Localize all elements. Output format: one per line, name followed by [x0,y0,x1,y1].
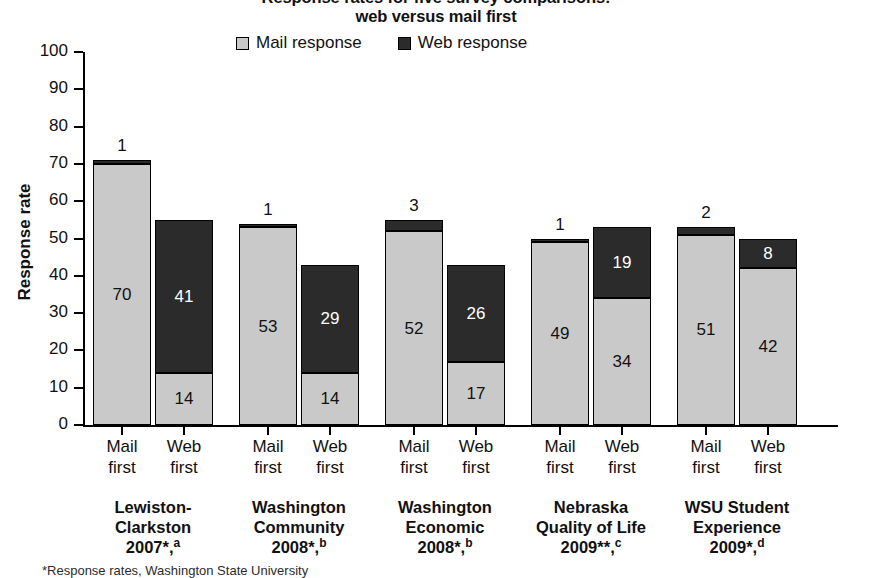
x-axis-line [83,425,838,427]
bar-web-first[interactable]: 1441 [155,220,213,425]
chart-title: Response rates for five survey compariso… [0,0,872,26]
bar-segment-mail-response[interactable]: 53 [239,227,297,425]
y-tick-label: 10 [28,377,68,397]
bar-mail-first[interactable]: 3523 [385,220,443,425]
x-group-label-line2: Economic [360,517,530,537]
x-sub-label-line1: Web [577,436,667,457]
x-group-label-line1: WSU Student [652,497,822,517]
x-sub-label-web-first: Webfirst [431,436,521,478]
x-group-label-year: 2008*,b [214,537,384,557]
x-group-label-line1: Lewiston- [68,497,238,517]
y-tick: 70 [74,163,83,165]
x-group-label: NebraskaQuality of Life2009**,c [506,497,676,557]
x-sub-label-line1: Web [285,436,375,457]
bar-value-label: 14 [321,390,340,407]
bar-web-first[interactable]: 1726 [447,265,505,425]
bar-segment-mail-response[interactable]: 14 [155,373,213,425]
y-tick: 30 [74,312,83,314]
bar-value-label: 42 [759,338,778,355]
bar-segment-web-response[interactable]: 1 [93,160,151,164]
bar-mail-first[interactable]: 2512 [677,227,735,425]
bar-mail-first[interactable]: 1531 [239,224,297,425]
chart-title-line2: web versus mail first [0,7,872,26]
x-group-year-value: 2009 [561,538,598,556]
x-group-label-year: 2007*,a [68,537,238,557]
x-tick [413,425,415,435]
bar-value-label: 19 [613,254,632,271]
x-group-label-line2: Experience [652,517,822,537]
bar-segment-web-response[interactable]: 19 [593,227,651,298]
bar-web-first[interactable]: 3419 [593,227,651,425]
x-group-note-ref: b [319,536,326,550]
x-group-label-line2: Community [214,517,384,537]
x-tick [621,425,623,435]
y-tick: 20 [74,349,83,351]
y-tick-label: 40 [28,265,68,285]
y-tick: 80 [74,126,83,128]
bar-web-first[interactable]: 428 [739,239,797,426]
x-sub-label-line2: first [139,457,229,478]
y-tick-label: 90 [28,78,68,98]
bar-segment-web-response[interactable]: 26 [447,265,505,362]
chart-title-line1: Response rates for five survey compariso… [0,0,872,7]
x-sub-label-line1: Web [139,436,229,457]
legend-label: Mail response [256,33,362,53]
bar-segment-mail-response[interactable]: 17 [447,362,505,425]
bar-segment-web-response[interactable]: 2 [677,227,735,234]
bar-segment-mail-response[interactable]: 52 [385,231,443,425]
bar-value-label: 26 [467,305,486,322]
bar-segment-web-response[interactable]: 1 [531,239,589,243]
x-group-label-line2: Clarkston [68,517,238,537]
x-sub-label-web-first: Webfirst [577,436,667,478]
x-tick [475,425,477,435]
bar-value-label: 17 [467,385,486,402]
y-tick: 90 [74,88,83,90]
x-group-label: WashingtonCommunity2008*,b [214,497,384,557]
legend-label: Web response [418,33,527,53]
x-sub-label-line2: first [723,457,813,478]
chart-legend: Mail responseWeb response [236,33,527,53]
bar-segment-web-response[interactable]: 3 [385,220,443,231]
bar-segment-web-response[interactable]: 8 [739,239,797,269]
x-group-year-value: 2009 [709,538,746,556]
x-sub-label-line2: first [577,457,667,478]
x-group-note-ref: d [757,536,764,550]
bar-segment-web-response[interactable]: 29 [301,265,359,373]
x-tick [559,425,561,435]
x-group-label: WSU StudentExperience2009*,d [652,497,822,557]
y-tick: 40 [74,275,83,277]
x-group-note-ref: b [465,536,472,550]
x-tick [183,425,185,435]
bar-segment-mail-response[interactable]: 51 [677,235,735,425]
bar-value-label: 51 [697,321,716,338]
x-group-label: WashingtonEconomic2008*,b [360,497,530,557]
bar-web-first[interactable]: 1429 [301,265,359,425]
legend-swatch-icon [236,37,249,50]
x-sub-label-line2: first [431,457,521,478]
y-tick-label: 20 [28,339,68,359]
bar-mail-first[interactable]: 1701 [93,160,151,425]
bar-segment-mail-response[interactable]: 14 [301,373,359,425]
y-tick-label: 100 [28,41,68,61]
x-group-significance-marks: ** [597,538,610,556]
plot-area: 0102030405060708090100 17011441153114293… [83,52,838,425]
bar-segment-mail-response[interactable]: 42 [739,268,797,425]
bar-segment-mail-response[interactable]: 70 [93,164,151,425]
x-sub-label-web-first: Webfirst [139,436,229,478]
x-sub-label-line1: Web [431,436,521,457]
bar-top-value-label: 1 [531,215,589,235]
bar-segment-mail-response[interactable]: 49 [531,242,589,425]
bar-segment-mail-response[interactable]: 34 [593,298,651,425]
y-tick: 100 [74,51,83,53]
bar-value-label: 41 [175,288,194,305]
bar-segment-web-response[interactable]: 41 [155,220,213,373]
bar-segment-web-response[interactable]: 1 [239,224,297,228]
bar-value-label: 34 [613,353,632,370]
x-tick [767,425,769,435]
y-tick-label: 30 [28,302,68,322]
legend-item-web-response: Web response [398,33,527,53]
bar-mail-first[interactable]: 1491 [531,239,589,426]
x-sub-label-line1: Web [723,436,813,457]
y-tick: 10 [74,387,83,389]
x-group-note-ref: a [174,536,181,550]
